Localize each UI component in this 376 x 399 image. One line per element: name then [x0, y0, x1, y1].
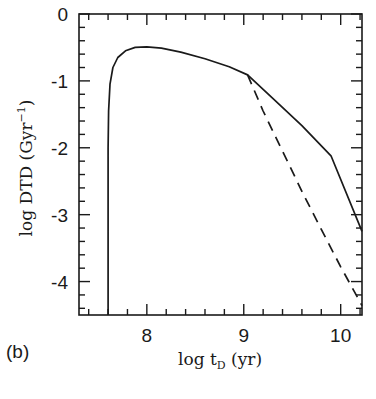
x-tick-label: 9 — [238, 325, 249, 346]
y-tick-label: -3 — [51, 205, 68, 226]
tick-labels: 89100-1-2-3-4 — [51, 4, 351, 346]
x-tick-label: 10 — [330, 325, 351, 346]
data-series — [108, 47, 362, 315]
dtd-chart: 89100-1-2-3-4 log tD (yr) log DTD (Gyr−1… — [0, 0, 376, 399]
y-tick-label: -4 — [51, 272, 68, 293]
y-tick-label: 0 — [57, 4, 68, 25]
x-axis-title: log tD (yr) — [178, 349, 262, 372]
plot-frame — [79, 14, 362, 315]
y-tick-label: -2 — [51, 138, 68, 159]
solid-line — [108, 47, 362, 315]
axis-ticks — [79, 14, 362, 315]
panel-label: (b) — [6, 341, 29, 362]
x-tick-label: 8 — [142, 325, 153, 346]
figure-panel: 89100-1-2-3-4 log tD (yr) log DTD (Gyr−1… — [0, 0, 376, 399]
y-tick-label: -1 — [51, 71, 68, 92]
y-axis-title: log DTD (Gyr−1) — [15, 100, 36, 237]
